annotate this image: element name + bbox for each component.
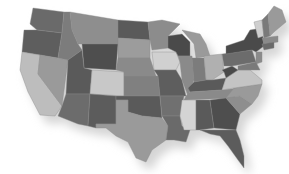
state-nm: New Mexico xyxy=(88,94,116,128)
state-nj: New Jersey xyxy=(256,52,262,64)
state-sd: South Dakota xyxy=(118,38,150,58)
state-co: Colorado xyxy=(90,70,124,96)
us-map-svg: WashingtonOregonCaliforniaNevadaIdahoMon… xyxy=(0,0,289,174)
state-layer: WashingtonOregonCaliforniaNevadaIdahoMon… xyxy=(20,6,286,168)
state-wy: Wyoming xyxy=(82,44,118,70)
state-mt: Montana xyxy=(70,12,118,44)
us-map: WashingtonOregonCaliforniaNevadaIdahoMon… xyxy=(0,0,289,174)
state-nd: North Dakota xyxy=(118,20,150,40)
state-wa: Washington xyxy=(30,8,64,33)
state-in: Indiana xyxy=(192,58,206,82)
state-ia: Iowa xyxy=(152,52,180,70)
state-ks: Kansas xyxy=(124,76,160,96)
